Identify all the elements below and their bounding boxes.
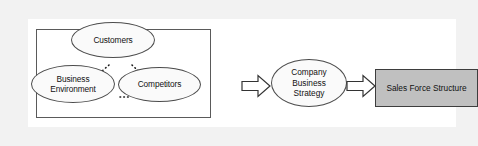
node-company-business-strategy-label-line1: Company: [291, 67, 327, 78]
arrow-right-icon-strategy-to-structure: [346, 74, 376, 98]
node-business-environment-label-line1: Business: [57, 74, 90, 84]
diagram-canvas: Customers Business Environment Competito…: [28, 19, 456, 127]
node-sales-force-structure-label: Sales Force Structure: [386, 83, 466, 93]
node-sales-force-structure[interactable]: Sales Force Structure: [375, 69, 478, 107]
node-business-environment[interactable]: Business Environment: [31, 65, 115, 103]
node-business-environment-label-line2: Environment: [50, 84, 95, 94]
node-company-business-strategy-label-line2: Business: [292, 78, 326, 89]
node-customers[interactable]: Customers: [71, 22, 155, 58]
node-competitors[interactable]: Competitors: [118, 67, 201, 102]
figure-root: Customers Business Environment Competito…: [0, 0, 478, 146]
node-company-business-strategy-label-line3: Strategy: [294, 88, 325, 99]
node-company-business-strategy[interactable]: Company Business Strategy: [271, 59, 347, 107]
node-competitors-label: Competitors: [138, 79, 182, 89]
arrow-right-icon-environment-to-strategy: [241, 74, 271, 98]
node-customers-label: Customers: [93, 35, 132, 45]
